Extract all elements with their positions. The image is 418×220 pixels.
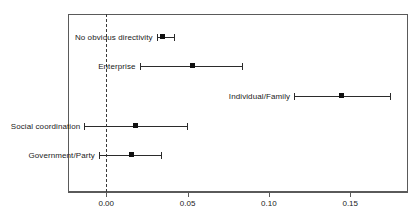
- row-label: Government/Party: [28, 149, 95, 163]
- estimate-point: [190, 63, 195, 68]
- x-axis-tick: [188, 192, 189, 197]
- chart-title: [0, 0, 418, 1]
- ci-cap-low: [157, 34, 158, 41]
- coefficient-plot: No obvious directivityEnterpriseIndividu…: [0, 0, 418, 220]
- estimate-point: [129, 152, 134, 157]
- data-row: Individual/Family: [0, 90, 418, 104]
- ci-cap-high: [174, 34, 175, 41]
- ci-cap-low: [294, 93, 295, 100]
- ci-cap-low: [99, 152, 100, 159]
- estimate-point: [133, 123, 138, 128]
- estimate-point: [339, 93, 344, 98]
- x-axis-tick: [269, 192, 270, 197]
- data-row: Government/Party: [0, 149, 418, 163]
- x-axis-tick-label: 0.10: [261, 199, 277, 208]
- ci-cap-high: [187, 123, 188, 130]
- ci-cap-high: [161, 152, 162, 159]
- ci-cap-low: [84, 123, 85, 130]
- x-axis-tick-label: 0.05: [180, 199, 196, 208]
- row-label: Enterprise: [98, 60, 135, 74]
- data-row: No obvious directivity: [0, 31, 418, 45]
- x-axis-tick: [350, 192, 351, 197]
- row-label: No obvious directivity: [75, 31, 153, 45]
- x-axis-line: [68, 192, 408, 193]
- row-label: Individual/Family: [229, 90, 290, 104]
- x-axis-tick: [106, 192, 107, 197]
- estimate-point: [160, 34, 165, 39]
- ci-cap-low: [140, 63, 141, 70]
- x-axis-tick-label: 0.00: [98, 199, 114, 208]
- ci-cap-high: [242, 63, 243, 70]
- x-axis-tick-label: 0.15: [342, 199, 358, 208]
- row-label: Social coordination: [11, 120, 81, 134]
- data-row: Enterprise: [0, 60, 418, 74]
- ci-cap-high: [390, 93, 391, 100]
- data-row: Social coordination: [0, 120, 418, 134]
